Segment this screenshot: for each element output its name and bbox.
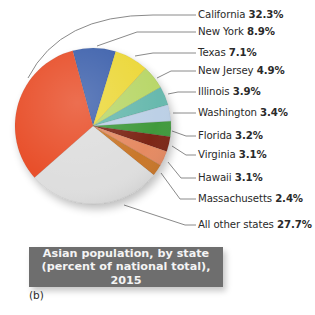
legend-label-washington: Washington 3.4% (198, 107, 288, 119)
leader-line (172, 131, 196, 136)
panel-label: (b) (29, 289, 44, 301)
legend-label-name: Texas (198, 47, 229, 58)
legend-label-hawaii: Hawaii 3.1% (198, 172, 263, 184)
legend-label-name: New York (198, 26, 247, 37)
legend-label-value: 3.9% (233, 86, 261, 97)
legend-label-name: Florida (198, 130, 235, 141)
legend-label-illinois: Illinois 3.9% (198, 86, 261, 98)
chart-title-line-1: Asian population, by state (29, 247, 223, 261)
chart-title-box: Asian population, by state (percent of n… (29, 247, 223, 287)
legend-label-florida: Florida 3.2% (198, 130, 263, 142)
legend-label-value: 8.9% (247, 26, 275, 37)
legend-label-name: Virginia (198, 149, 239, 160)
leader-line (157, 71, 196, 78)
legend-label-california: California 32.3% (198, 9, 283, 21)
leader-line (97, 32, 196, 46)
legend-label-name: Massachusetts (198, 193, 275, 204)
legend-label-value: 27.7% (277, 219, 312, 230)
chart-title-line-2: (percent of national total), 2015 (29, 260, 223, 287)
legend-label-name: New Jersey (198, 65, 257, 76)
legend-label-texas: Texas 7.1% (198, 47, 257, 59)
legend-label-value: 2.4% (275, 193, 303, 204)
legend-label-value: 3.4% (260, 107, 288, 118)
legend-label-name: Illinois (198, 86, 233, 97)
legend-label-name: All other states (198, 219, 277, 230)
legend-label-massachusetts: Massachusetts 2.4% (198, 193, 303, 205)
legend-label-value: 4.9% (257, 65, 285, 76)
legend-label-new-jersey: New Jersey 4.9% (198, 65, 285, 77)
leader-line (168, 92, 196, 94)
leader-line (135, 53, 196, 56)
legend-label-value: 32.3% (249, 9, 284, 20)
leader-line (124, 205, 196, 225)
legend-label-name: Hawaii (198, 172, 235, 183)
leader-line (168, 162, 196, 178)
legend-label-new-york: New York 8.9% (198, 26, 275, 38)
legend-label-value: 7.1% (229, 47, 257, 58)
pie-shading (15, 48, 171, 204)
legend-label-all-other-states: All other states 27.7% (198, 219, 312, 231)
legend-label-value: 3.1% (239, 149, 267, 160)
legend-label-value: 3.1% (235, 172, 263, 183)
legend-label-name: California (198, 9, 249, 20)
legend-label-name: Washington (198, 107, 260, 118)
leader-line (161, 173, 196, 199)
legend-label-virginia: Virginia 3.1% (198, 149, 267, 161)
legend-label-value: 3.2% (235, 130, 263, 141)
leader-line (172, 146, 196, 155)
